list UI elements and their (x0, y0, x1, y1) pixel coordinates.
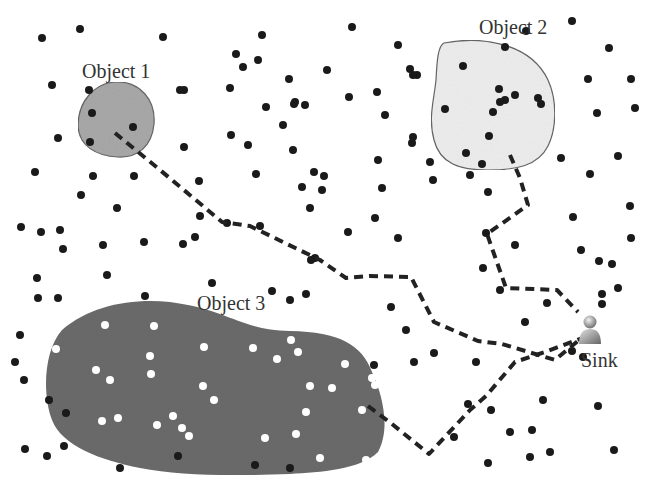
sensor-node (140, 238, 148, 246)
sensor-node (56, 226, 64, 234)
sensor-node (605, 44, 613, 52)
sensor-node (254, 56, 262, 64)
sensor-node-covered (249, 344, 257, 352)
object1-label: Object 1 (82, 60, 150, 83)
sensor-node (496, 286, 504, 294)
sensor-node (577, 246, 585, 254)
sensor-node (307, 256, 315, 264)
sensor-node (244, 141, 252, 149)
sensor-node (279, 121, 287, 129)
sensor-node (45, 396, 53, 404)
sensor-node (180, 143, 188, 151)
sensor-node (478, 160, 486, 168)
sensor-node (37, 228, 45, 236)
sink-node (579, 316, 601, 345)
sensor-node-covered (52, 345, 60, 353)
sensor-node (371, 214, 379, 222)
sensor-node (373, 88, 381, 96)
sensor-node-covered (101, 321, 109, 329)
sensor-node (484, 459, 492, 467)
sensor-node (381, 111, 389, 119)
sensor-node-covered (185, 432, 193, 440)
sensor-node (89, 172, 97, 180)
sensor-node (521, 318, 529, 326)
sensor-node (11, 358, 19, 366)
sensor-node (318, 186, 326, 194)
sensor-node (496, 98, 504, 106)
sensor-node (614, 284, 622, 292)
sensor-node-covered (352, 292, 360, 300)
sensor-node (546, 448, 554, 456)
sensor-node (394, 234, 402, 242)
sensor-node (258, 31, 266, 39)
sensor-node (17, 223, 25, 231)
sensor-node (489, 108, 497, 116)
sensor-node (289, 146, 297, 154)
sensor-node-covered (210, 396, 218, 404)
sensor-node (627, 234, 635, 242)
sensor-node-covered (200, 343, 208, 351)
object3-label: Object 3 (197, 292, 265, 315)
sensor-node (20, 376, 28, 384)
sensor-node (626, 202, 634, 210)
sensor-node (306, 204, 314, 212)
sensor-node (77, 191, 85, 199)
sensor-node (59, 245, 67, 253)
sensor-node (34, 294, 42, 302)
sensor-node-covered (92, 366, 100, 374)
sensor-node (239, 63, 247, 71)
sensor-node (103, 271, 111, 279)
person-icon (579, 316, 601, 345)
sensor-node-covered (169, 412, 177, 420)
sensor-node-covered (328, 384, 336, 392)
sensor-node (430, 349, 438, 357)
sensor-node (227, 131, 235, 139)
sensor-node (85, 86, 93, 94)
sensor-node (54, 134, 62, 142)
sensor-node (302, 290, 310, 298)
sensor-node-covered (150, 322, 158, 330)
sensor-node (627, 75, 635, 83)
sensor-node (21, 445, 29, 453)
sensor-node (262, 103, 270, 111)
sensor-node-covered (316, 454, 324, 462)
sensor-node (310, 168, 318, 176)
sensor-node (208, 279, 216, 287)
sensor-node (141, 292, 149, 300)
sensor-node (511, 91, 519, 99)
sensor-node (251, 461, 259, 469)
sensor-node (345, 93, 353, 101)
sensor-node-covered (362, 456, 370, 464)
sensor-node (344, 228, 352, 236)
sensor-node (539, 396, 547, 404)
sensor-node (528, 426, 536, 434)
sensor-node (586, 170, 594, 178)
sensor-node (408, 139, 416, 147)
sensor-node (226, 84, 234, 92)
sensor-node-covered (114, 414, 122, 422)
sensor-node (557, 154, 565, 162)
sensor-node (99, 241, 107, 249)
sensor-node (116, 464, 124, 472)
sensor-node (38, 34, 46, 42)
sensor-node (387, 303, 395, 311)
sensor-node (631, 104, 639, 112)
sensor-node-covered (261, 434, 269, 442)
sensor-node (86, 138, 94, 146)
sensor-node (484, 188, 492, 196)
sensor-node (290, 100, 298, 108)
sensor-node (466, 171, 474, 179)
sensor-node-covered (199, 382, 207, 390)
sensor-node (301, 101, 309, 109)
sensor-node (608, 260, 616, 268)
sensor-node (429, 176, 437, 184)
sensor-network-diagram: Object 1 Object 2 Object 3 Sink (0, 0, 650, 486)
sensor-node (33, 274, 41, 282)
sensor-node-covered (273, 355, 281, 363)
sensor-node-covered (287, 336, 295, 344)
sensor-node (31, 168, 39, 176)
sensor-node-covered (106, 376, 114, 384)
sensor-node (62, 409, 70, 417)
sensor-node (506, 428, 514, 436)
sensor-node (526, 453, 534, 461)
